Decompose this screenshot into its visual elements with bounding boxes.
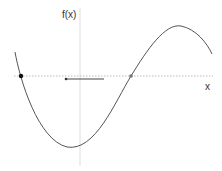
middle-root-point bbox=[129, 74, 133, 78]
function-curve bbox=[15, 26, 212, 148]
function-plot bbox=[0, 0, 222, 171]
x-axis-label: x bbox=[205, 82, 210, 92]
y-axis-label: f(x) bbox=[62, 10, 76, 20]
left-root-point bbox=[19, 74, 23, 78]
arrow-head-icon bbox=[65, 78, 68, 81]
